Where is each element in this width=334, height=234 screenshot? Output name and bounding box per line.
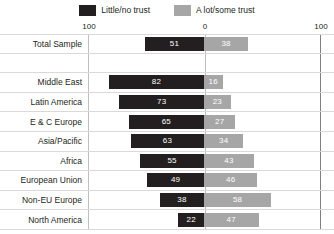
bar-value-label: 38 bbox=[221, 40, 230, 48]
bar-value-label: 65 bbox=[162, 118, 171, 126]
bar-little-no-trust: 55 bbox=[140, 154, 204, 168]
legend-entry-little-no-trust: Little/no trust bbox=[79, 5, 150, 16]
bar-little-no-trust: 63 bbox=[131, 134, 204, 148]
row-label: Non-EU Europe bbox=[22, 195, 82, 205]
bar-a-lot-some-trust: 16 bbox=[204, 75, 223, 89]
bar-a-lot-some-trust: 47 bbox=[204, 213, 259, 227]
row-label: Middle East bbox=[38, 77, 82, 87]
bar-a-lot-some-trust: 34 bbox=[204, 134, 243, 148]
legend-label-a-lot-some-trust: A lot/some trust bbox=[196, 6, 255, 15]
bar-value-label: 63 bbox=[163, 137, 172, 145]
bar-little-no-trust: 73 bbox=[119, 95, 204, 109]
chart-row: Africa5543 bbox=[0, 152, 334, 172]
bar-value-label: 55 bbox=[167, 157, 176, 165]
legend-label-little-no-trust: Little/no trust bbox=[101, 6, 150, 15]
chart-row: North America2247 bbox=[0, 210, 334, 230]
x-axis-tick-labels: 100 0 100 bbox=[0, 21, 334, 32]
axis-tick-right-100: 100 bbox=[314, 21, 327, 32]
row-label: Africa bbox=[60, 156, 82, 166]
bar-value-label: 73 bbox=[157, 98, 166, 106]
bar-little-no-trust: 82 bbox=[109, 75, 204, 89]
bar-value-label: 27 bbox=[215, 118, 224, 126]
axis-tick-left-100: 100 bbox=[82, 21, 95, 32]
chart-row: Latin America7323 bbox=[0, 93, 334, 113]
bar-a-lot-some-trust: 58 bbox=[204, 193, 271, 207]
chart-rows: Total Sample5138Middle East8216Latin Ame… bbox=[0, 34, 334, 230]
row-label: Latin America bbox=[31, 97, 83, 107]
chart-row: Non-EU Europe3858 bbox=[0, 191, 334, 211]
bar-value-label: 58 bbox=[233, 196, 242, 204]
bar-little-no-trust: 51 bbox=[145, 37, 204, 51]
legend-entry-a-lot-some-trust: A lot/some trust bbox=[174, 5, 255, 16]
legend-swatch-a-lot-some-trust bbox=[174, 5, 191, 16]
bar-value-label: 34 bbox=[219, 137, 228, 145]
row-label: North America bbox=[28, 215, 82, 225]
axis-tick-center-0: 0 bbox=[203, 21, 207, 32]
bar-value-label: 49 bbox=[171, 176, 180, 184]
chart-legend: Little/no trust A lot/some trust bbox=[0, 0, 334, 20]
bar-little-no-trust: 65 bbox=[129, 115, 204, 129]
diverging-bar-chart: Little/no trust A lot/some trust 100 0 1… bbox=[0, 0, 334, 234]
chart-row: European Union4946 bbox=[0, 171, 334, 191]
chart-row: Asia/Pacific6334 bbox=[0, 132, 334, 152]
bar-value-label: 82 bbox=[152, 78, 161, 86]
bar-value-label: 23 bbox=[213, 98, 222, 106]
bar-little-no-trust: 49 bbox=[147, 173, 204, 187]
bar-a-lot-some-trust: 27 bbox=[204, 115, 235, 129]
bar-a-lot-some-trust: 23 bbox=[204, 95, 231, 109]
row-label: E & C Europe bbox=[30, 117, 82, 127]
bar-a-lot-some-trust: 38 bbox=[204, 37, 248, 51]
chart-row: E & C Europe6527 bbox=[0, 112, 334, 132]
row-label: Asia/Pacific bbox=[38, 136, 82, 146]
bar-a-lot-some-trust: 43 bbox=[204, 154, 254, 168]
row-label: Total Sample bbox=[33, 39, 82, 49]
chart-row-spacer bbox=[0, 54, 334, 74]
bar-value-label: 38 bbox=[177, 196, 186, 204]
bar-value-label: 22 bbox=[187, 216, 196, 224]
chart-row: Middle East8216 bbox=[0, 73, 334, 93]
bar-little-no-trust: 22 bbox=[178, 213, 204, 227]
chart-row: Total Sample5138 bbox=[0, 34, 334, 54]
bar-value-label: 46 bbox=[226, 176, 235, 184]
row-label: European Union bbox=[21, 175, 82, 185]
bar-value-label: 43 bbox=[224, 157, 233, 165]
legend-swatch-little-no-trust bbox=[79, 5, 96, 16]
bar-value-label: 51 bbox=[170, 40, 179, 48]
bar-value-label: 47 bbox=[227, 216, 236, 224]
bar-little-no-trust: 38 bbox=[160, 193, 204, 207]
bar-value-label: 16 bbox=[209, 78, 218, 86]
bar-a-lot-some-trust: 46 bbox=[204, 173, 257, 187]
